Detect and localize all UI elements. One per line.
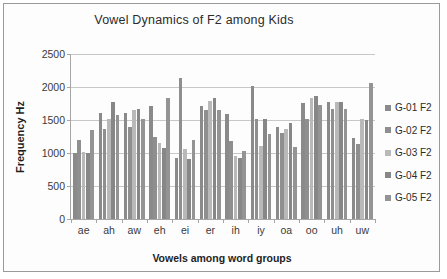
bar[interactable] [293,147,297,219]
bar-group [327,54,349,219]
bar[interactable] [259,146,263,219]
legend-item[interactable]: G-04 F2 [385,170,432,181]
x-category-label: ei [181,224,189,236]
bar-group [352,54,374,219]
bar[interactable] [99,113,103,219]
x-category-label: ih [232,224,240,236]
y-tick-mark [67,186,71,187]
bar-group [225,54,247,219]
bar[interactable] [213,98,217,219]
bar[interactable] [276,127,280,219]
bar[interactable] [263,119,267,219]
bar[interactable] [229,141,233,219]
bar[interactable] [327,102,331,219]
bar[interactable] [132,110,136,219]
bar-group [149,54,171,219]
y-tick-mark [67,120,71,121]
bar[interactable] [124,113,128,219]
y-tick-label: 2500 [42,48,65,60]
bar[interactable] [339,102,343,219]
bar[interactable] [360,119,364,219]
bar[interactable] [158,143,162,219]
bar[interactable] [179,78,183,219]
x-tick-mark [71,219,72,223]
x-tick-mark [122,219,123,223]
bar[interactable] [280,133,284,219]
x-category-label: aw [128,224,141,236]
legend-swatch-icon [385,150,391,156]
y-tick-label: 500 [47,180,65,192]
bar[interactable] [289,123,293,219]
x-tick-mark [198,219,199,223]
bar[interactable] [103,129,107,219]
bar[interactable] [175,158,179,219]
bar[interactable] [310,98,314,219]
y-axis-title: Frequency Hz [12,54,28,219]
bar[interactable] [204,110,208,219]
bar[interactable] [208,101,212,219]
x-category-label: ah [103,224,115,236]
legend-swatch-icon [385,127,391,133]
x-category-label: oa [280,224,292,236]
legend-item[interactable]: G-01 F2 [385,102,432,113]
y-tick-mark [67,54,71,55]
bar[interactable] [217,110,221,219]
y-tick-mark [67,87,71,88]
bar[interactable] [284,129,288,219]
bar[interactable] [111,102,115,219]
bar[interactable] [192,140,196,219]
bar[interactable] [268,134,272,219]
y-tick-label: 1500 [42,114,65,126]
bar[interactable] [116,115,120,219]
legend-label: G-03 F2 [395,147,432,158]
bar[interactable] [365,120,369,219]
bar[interactable] [225,114,229,219]
bar[interactable] [183,149,187,219]
bar[interactable] [255,119,259,219]
bar-group [99,54,121,219]
bar[interactable] [242,151,246,219]
bar[interactable] [82,152,86,219]
bar[interactable] [238,158,242,219]
bar[interactable] [356,144,360,219]
legend-label: G-05 F2 [395,192,432,203]
bar[interactable] [187,159,191,219]
legend-item[interactable]: G-05 F2 [385,192,432,203]
bar[interactable] [352,138,356,219]
bar[interactable] [141,119,145,219]
legend-item[interactable]: G-02 F2 [385,125,432,136]
x-category-label: iy [257,224,265,236]
x-axis-title: Vowels among word groups [70,252,374,264]
bar[interactable] [301,103,305,219]
bar[interactable] [234,156,238,219]
legend-item[interactable]: G-03 F2 [385,147,432,158]
bar[interactable] [77,140,81,219]
bar-group [124,54,146,219]
bar[interactable] [90,130,94,219]
x-category-label: er [206,224,215,236]
x-category-label: uw [356,224,369,236]
bar[interactable] [251,86,255,219]
bar[interactable] [200,106,204,219]
bar[interactable] [107,119,111,219]
x-tick-mark [147,219,148,223]
bar[interactable] [73,153,77,219]
bar[interactable] [305,119,309,219]
bar[interactable] [128,127,132,219]
bar[interactable] [153,137,157,219]
bar[interactable] [318,105,322,219]
bar[interactable] [149,106,153,219]
x-tick-mark [375,219,376,223]
bar[interactable] [369,83,373,219]
bar[interactable] [166,98,170,219]
y-tick-mark [67,153,71,154]
bar[interactable] [344,109,348,219]
bar[interactable] [314,96,318,219]
legend-label: G-01 F2 [395,102,432,113]
bar[interactable] [137,109,141,219]
bar[interactable] [86,153,90,219]
bar[interactable] [331,109,335,219]
bar[interactable] [162,148,166,219]
legend-label: G-02 F2 [395,125,432,136]
bar[interactable] [335,102,339,219]
